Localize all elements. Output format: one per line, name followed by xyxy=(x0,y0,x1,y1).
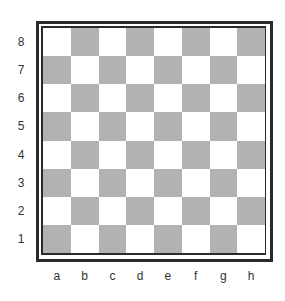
square-h2[interactable] xyxy=(237,197,265,225)
square-a1[interactable] xyxy=(43,225,71,253)
file-label-a: a xyxy=(47,269,67,283)
square-b5[interactable] xyxy=(71,112,99,140)
square-e2[interactable] xyxy=(154,197,182,225)
square-b7[interactable] xyxy=(71,56,99,84)
square-a5[interactable] xyxy=(43,112,71,140)
square-a3[interactable] xyxy=(43,169,71,197)
square-g5[interactable] xyxy=(210,112,238,140)
square-c7[interactable] xyxy=(99,56,127,84)
square-c8[interactable] xyxy=(99,28,127,56)
square-h6[interactable] xyxy=(237,84,265,112)
square-a8[interactable] xyxy=(43,28,71,56)
square-f5[interactable] xyxy=(182,112,210,140)
square-g3[interactable] xyxy=(210,169,238,197)
square-h4[interactable] xyxy=(237,141,265,169)
square-g8[interactable] xyxy=(210,28,238,56)
chessboard[interactable] xyxy=(43,28,265,253)
square-g6[interactable] xyxy=(210,84,238,112)
square-b2[interactable] xyxy=(71,197,99,225)
square-g1[interactable] xyxy=(210,225,238,253)
square-f1[interactable] xyxy=(182,225,210,253)
file-label-f: f xyxy=(186,269,206,283)
square-e1[interactable] xyxy=(154,225,182,253)
square-e7[interactable] xyxy=(154,56,182,84)
square-h5[interactable] xyxy=(237,112,265,140)
square-b3[interactable] xyxy=(71,169,99,197)
square-e6[interactable] xyxy=(154,84,182,112)
file-label-g: g xyxy=(213,269,233,283)
square-e8[interactable] xyxy=(154,28,182,56)
square-c1[interactable] xyxy=(99,225,127,253)
square-h3[interactable] xyxy=(237,169,265,197)
square-d6[interactable] xyxy=(126,84,154,112)
square-e3[interactable] xyxy=(154,169,182,197)
square-e4[interactable] xyxy=(154,141,182,169)
square-h7[interactable] xyxy=(237,56,265,84)
file-label-b: b xyxy=(75,269,95,283)
square-d8[interactable] xyxy=(126,28,154,56)
file-label-h: h xyxy=(241,269,261,283)
square-d7[interactable] xyxy=(126,56,154,84)
square-a6[interactable] xyxy=(43,84,71,112)
square-e5[interactable] xyxy=(154,112,182,140)
file-label-e: e xyxy=(158,269,178,283)
square-d4[interactable] xyxy=(126,141,154,169)
rank-label-6: 6 xyxy=(14,91,28,105)
square-g7[interactable] xyxy=(210,56,238,84)
square-f6[interactable] xyxy=(182,84,210,112)
square-b1[interactable] xyxy=(71,225,99,253)
square-h8[interactable] xyxy=(237,28,265,56)
rank-label-5: 5 xyxy=(14,119,28,133)
square-f8[interactable] xyxy=(182,28,210,56)
square-c2[interactable] xyxy=(99,197,127,225)
square-f3[interactable] xyxy=(182,169,210,197)
square-a2[interactable] xyxy=(43,197,71,225)
file-label-d: d xyxy=(130,269,150,283)
rank-label-1: 1 xyxy=(14,232,28,246)
square-f7[interactable] xyxy=(182,56,210,84)
square-g2[interactable] xyxy=(210,197,238,225)
square-g4[interactable] xyxy=(210,141,238,169)
square-d2[interactable] xyxy=(126,197,154,225)
square-a4[interactable] xyxy=(43,141,71,169)
square-b6[interactable] xyxy=(71,84,99,112)
rank-label-7: 7 xyxy=(14,63,28,77)
square-d3[interactable] xyxy=(126,169,154,197)
square-d5[interactable] xyxy=(126,112,154,140)
square-h1[interactable] xyxy=(237,225,265,253)
square-d1[interactable] xyxy=(126,225,154,253)
rank-label-4: 4 xyxy=(14,148,28,162)
file-label-c: c xyxy=(102,269,122,283)
rank-label-3: 3 xyxy=(14,176,28,190)
square-c4[interactable] xyxy=(99,141,127,169)
square-b4[interactable] xyxy=(71,141,99,169)
square-c6[interactable] xyxy=(99,84,127,112)
square-c5[interactable] xyxy=(99,112,127,140)
square-f4[interactable] xyxy=(182,141,210,169)
square-f2[interactable] xyxy=(182,197,210,225)
square-b8[interactable] xyxy=(71,28,99,56)
rank-label-8: 8 xyxy=(14,35,28,49)
square-c3[interactable] xyxy=(99,169,127,197)
rank-label-2: 2 xyxy=(14,204,28,218)
square-a7[interactable] xyxy=(43,56,71,84)
